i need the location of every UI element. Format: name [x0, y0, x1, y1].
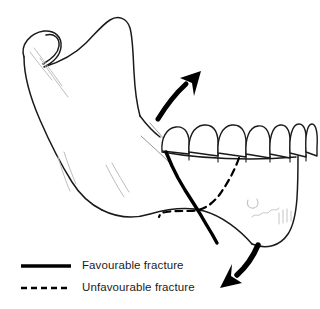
- tooth-molar-2: [189, 125, 218, 156]
- ramus-posterior-border: [24, 57, 102, 210]
- legend-label-unfavourable: Unfavourable fracture: [82, 282, 195, 294]
- condyle-inner-contour: [43, 35, 59, 64]
- superior-arrow-shaft: [158, 84, 186, 119]
- angle-shading-3: [106, 165, 124, 197]
- tooth-incisor-lateral: [306, 124, 318, 156]
- solid-line-swatch-icon: [20, 260, 72, 272]
- chin-hatch-shading: [252, 208, 291, 224]
- mental-foramen-icon: [247, 199, 258, 208]
- legend: Favourable fracture Unfavourable fractur…: [0, 255, 320, 309]
- tooth-canine: [290, 124, 306, 157]
- condyle-coronoid-ramus-anterior-border: [23, 18, 140, 116]
- tooth-molar-1: [218, 125, 246, 157]
- tooth-molar-3: [162, 127, 189, 154]
- tooth-premolar-1: [270, 125, 290, 158]
- bone-shading-strokes: [30, 48, 129, 197]
- favourable-fracture-line: [166, 152, 217, 243]
- tooth-premolar-2: [246, 126, 270, 158]
- legend-item-favourable: Favourable fracture: [0, 255, 320, 277]
- tooth-row: [162, 124, 317, 158]
- condyle-shading-2: [34, 48, 62, 86]
- legend-label-favourable: Favourable fracture: [82, 260, 184, 272]
- legend-item-unfavourable: Unfavourable fracture: [0, 277, 320, 299]
- superior-muscle-pull-arrow: [158, 71, 201, 119]
- chin-hatch-wave: [252, 208, 279, 217]
- inferior-border: [102, 208, 252, 244]
- symphysis-anterior-border: [252, 156, 298, 247]
- angle-shading-4: [112, 163, 129, 192]
- dashed-line-swatch-icon: [20, 282, 72, 294]
- angle-shading-1: [58, 157, 70, 191]
